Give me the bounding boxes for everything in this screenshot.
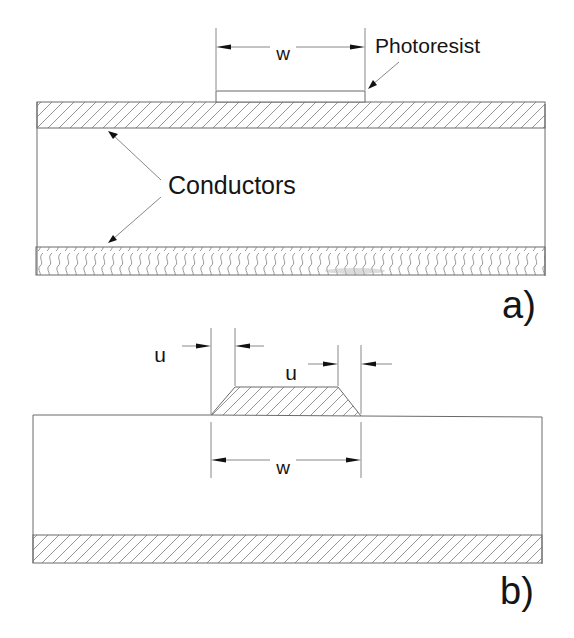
arrow-right-icon	[346, 458, 361, 463]
undercut-label-right: u	[285, 361, 297, 384]
photoresist-label: Photoresist	[375, 34, 480, 57]
arrow-right-icon	[350, 45, 365, 50]
panel-a: w Photoresist Conductors a)	[36, 28, 545, 326]
panel-label-b: b)	[500, 570, 534, 612]
conductors-label: Conductors	[168, 171, 296, 199]
ground-conductor-a	[36, 247, 545, 275]
arrow-left-icon	[235, 344, 250, 349]
width-label-a: w	[275, 43, 290, 64]
arrow-right-icon	[323, 362, 338, 367]
etched-strip-conductor	[211, 387, 361, 416]
microstrip-etching-diagram: w Photoresist Conductors a)	[0, 0, 574, 638]
photoresist-layer	[216, 91, 365, 102]
arrow-right-icon	[196, 344, 211, 349]
arrow-left-icon	[216, 45, 231, 50]
panel-label-a: a)	[502, 284, 536, 326]
panel-b: u u w b)	[33, 328, 542, 612]
arrow-left-icon	[361, 362, 376, 367]
arrow-left-icon	[211, 458, 226, 463]
conductors-callout: Conductors	[108, 131, 296, 243]
width-label-b: w	[275, 457, 290, 478]
width-dimension-b: w	[211, 422, 361, 478]
ground-conductor-b	[33, 535, 542, 563]
width-dimension-a: w	[216, 28, 365, 90]
photoresist-callout: Photoresist	[368, 34, 480, 89]
undercut-label-left: u	[154, 343, 166, 366]
top-conductor-a	[37, 102, 545, 128]
